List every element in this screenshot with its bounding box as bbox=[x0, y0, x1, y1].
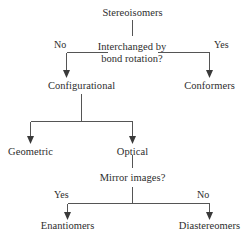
node-mirror-images: Mirror images? bbox=[92, 172, 173, 184]
node-stereoisomers: Stereoisomers bbox=[92, 7, 173, 19]
node-enantiomers: Enantiomers bbox=[28, 220, 107, 232]
arrowhead-enantiomers bbox=[64, 212, 71, 220]
arrowhead-conformers bbox=[206, 70, 213, 78]
edge-label-mirror-yes: Yes bbox=[54, 189, 69, 200]
arrowhead-optical bbox=[129, 136, 136, 144]
stereoisomer-classification-flowchart: Stereoisomers Interchanged by bond rotat… bbox=[0, 0, 252, 234]
node-optical: Optical bbox=[110, 146, 155, 158]
edge-label-rotation-yes: Yes bbox=[214, 39, 229, 50]
decision1-label-line2: bond rotation? bbox=[101, 53, 163, 64]
node-conformers: Conformers bbox=[176, 80, 243, 92]
node-interchanged-by-bond-rotation: Interchanged by bond rotation? bbox=[89, 41, 175, 64]
arrowhead-geometric bbox=[27, 136, 34, 144]
edge-label-rotation-no: No bbox=[54, 39, 66, 50]
flowchart-connectors bbox=[0, 0, 252, 234]
decision1-label-line1: Interchanged by bbox=[98, 41, 167, 52]
edge-label-mirror-no: No bbox=[197, 189, 209, 200]
node-geometric: Geometric bbox=[0, 146, 61, 158]
arrowhead-diastereomers bbox=[206, 212, 213, 220]
node-configurational: Configurational bbox=[40, 80, 123, 92]
node-diastereomers: Diastereomers bbox=[166, 220, 252, 232]
arrowhead-configurational bbox=[63, 70, 70, 78]
